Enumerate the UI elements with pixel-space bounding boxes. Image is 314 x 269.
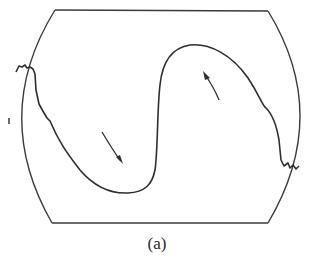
s-shaped-curve bbox=[16, 45, 299, 193]
figure-diagram bbox=[0, 0, 314, 269]
frame-top-edge bbox=[55, 10, 268, 11]
arrow-down bbox=[102, 132, 123, 164]
arrow-up bbox=[203, 71, 219, 100]
figure-caption: (a) bbox=[0, 234, 314, 254]
frame-left-arc bbox=[22, 10, 55, 223]
arrowhead-up-icon bbox=[203, 71, 210, 80]
frame-boundary bbox=[22, 10, 300, 223]
